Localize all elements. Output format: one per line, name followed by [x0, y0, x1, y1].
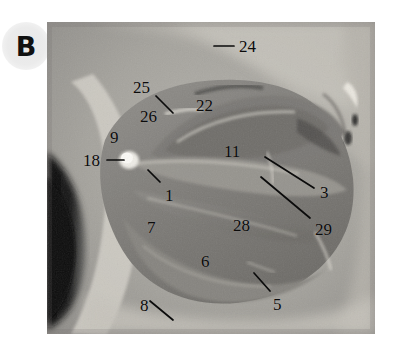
callout-label-29: 29 — [315, 221, 332, 238]
callout-label-26: 26 — [140, 108, 157, 125]
callout-label-25: 25 — [133, 79, 150, 96]
callout-label-28: 28 — [233, 217, 250, 234]
figure-panel: B — [0, 0, 396, 348]
callout-label-22: 22 — [196, 97, 213, 114]
callout-label-9: 9 — [110, 129, 119, 146]
dissection-photograph — [47, 22, 375, 334]
callout-label-7: 7 — [147, 219, 156, 236]
callout-label-1: 1 — [165, 187, 174, 204]
callout-label-24: 24 — [239, 38, 256, 55]
callout-label-5: 5 — [273, 296, 282, 313]
panel-letter: B — [2, 22, 50, 70]
callout-label-11: 11 — [224, 143, 240, 160]
photograph-content — [47, 22, 375, 334]
callout-label-18: 18 — [83, 152, 100, 169]
callout-label-3: 3 — [320, 184, 329, 201]
callout-label-6: 6 — [201, 253, 210, 270]
callout-label-8: 8 — [140, 297, 149, 314]
